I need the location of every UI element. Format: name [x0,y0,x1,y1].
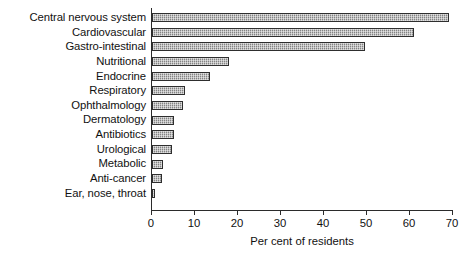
category-label: Central nervous system [0,12,146,23]
bar [152,145,172,154]
tick-label: 30 [265,217,295,229]
tick-mark [151,211,152,215]
category-label: Respiratory [0,85,146,96]
tick-mark [366,211,367,215]
tick-mark [237,211,238,215]
category-label: Ear, nose, throat [0,188,146,199]
value-axis-line [151,210,453,211]
bar [152,130,174,139]
category-label: Nutritional [0,56,146,67]
bar [152,72,210,81]
bar [152,160,163,169]
tick-mark [194,211,195,215]
category-label: Anti-cancer [0,173,146,184]
bar [152,13,449,22]
category-label: Gastro-intestinal [0,41,146,52]
tick-label: 40 [308,217,338,229]
tick-mark [323,211,324,215]
category-label: Urological [0,144,146,155]
bar [152,42,365,51]
bar [152,86,185,95]
tick-label: 10 [179,217,209,229]
bar [152,174,162,183]
bar-chart: Central nervous systemCardiovascularGast… [0,0,465,262]
bar [152,101,183,110]
category-label: Ophthalmology [0,100,146,111]
bar [152,189,155,198]
tick-label: 60 [394,217,424,229]
tick-label: 50 [351,217,381,229]
tick-mark [452,211,453,215]
bar [152,116,174,125]
tick-label: 20 [222,217,252,229]
tick-label: 0 [136,217,166,229]
category-axis-labels: Central nervous systemCardiovascularGast… [0,8,146,208]
x-axis-title: Per cent of residents [151,235,453,248]
category-label: Metabolic [0,158,146,169]
tick-mark [280,211,281,215]
tick-label: 70 [437,217,465,229]
category-label: Endocrine [0,71,146,82]
category-label: Cardiovascular [0,27,146,38]
bar [152,57,229,66]
category-label: Antibiotics [0,129,146,140]
category-label: Dermatology [0,114,146,125]
tick-mark [409,211,410,215]
bar [152,28,414,37]
plot-area [152,8,453,208]
